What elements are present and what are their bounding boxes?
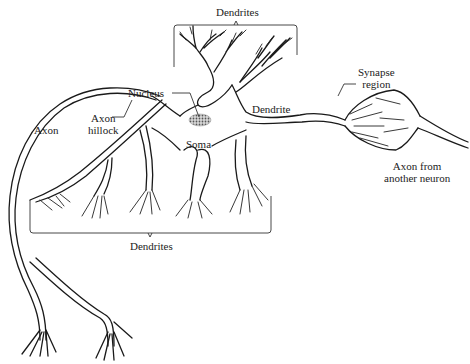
label-nucleus: Nucleus [128, 87, 164, 99]
label-dendrite: Dendrite [252, 103, 290, 115]
label-soma: Soma [186, 138, 211, 150]
axon [9, 88, 160, 346]
label-axon: Axon [34, 124, 58, 136]
label-dendrites-bottom: Dendrites [130, 240, 173, 252]
synapse-region [345, 90, 468, 150]
label-synapse-region: Synapse region [358, 66, 395, 90]
label-axon-hillock: Axon hillock [88, 112, 119, 136]
label-axon-from-line1: Axon from [384, 160, 450, 172]
dendrites-top [180, 26, 292, 82]
label-synapse-line1: Synapse [358, 66, 395, 78]
nucleus [189, 114, 211, 126]
label-axon-hillock-line2: hillock [88, 124, 119, 136]
synapse-leader-line [338, 84, 356, 96]
label-axon-from-another-neuron: Axon from another neuron [384, 160, 450, 184]
label-synapse-line2: region [358, 78, 395, 90]
dendrites-bottom [30, 100, 268, 218]
label-axon-hillock-line1: Axon [88, 112, 119, 124]
soma [152, 48, 345, 126]
axon-terminals [22, 322, 132, 360]
label-dendrites-top: Dendrites [216, 6, 259, 18]
label-axon-from-line2: another neuron [384, 172, 450, 184]
neuron-diagram: Dendrites Nucleus Axon Axon hillock Soma… [0, 0, 470, 364]
